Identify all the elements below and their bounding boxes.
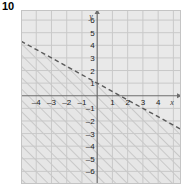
y-tick-label: –3 — [86, 130, 95, 139]
y-tick-label: –6 — [86, 167, 95, 176]
x-tick-label: –4 — [32, 98, 41, 107]
x-tick-label: –2 — [62, 98, 71, 107]
y-tick-label: –5 — [86, 155, 95, 164]
problem-number: 10 — [2, 1, 14, 12]
coordinate-plane-svg: –4–3–2–11234654321–1–2–3–4–5–6 x y — [21, 10, 181, 184]
coordinate-plane: –4–3–2–11234654321–1–2–3–4–5–6 x y — [21, 10, 181, 184]
x-tick-label: 1 — [110, 98, 115, 107]
y-tick-label: 5 — [90, 29, 95, 38]
y-axis-label: y — [88, 12, 93, 21]
y-tick-label: 4 — [90, 41, 95, 50]
x-axis-label: x — [169, 98, 174, 107]
y-tick-label: 1 — [90, 79, 95, 88]
x-tick-label: 2 — [125, 98, 130, 107]
x-tick-label: 4 — [156, 98, 161, 107]
y-tick-label: –2 — [86, 117, 95, 126]
y-tick-label: 3 — [90, 54, 95, 63]
x-tick-label: 3 — [141, 98, 146, 107]
x-tick-label: –3 — [47, 98, 56, 107]
y-tick-label: –4 — [86, 142, 95, 151]
y-tick-label: 2 — [90, 67, 95, 76]
graph-figure: 10 — [0, 0, 187, 187]
y-tick-label: –1 — [86, 104, 95, 113]
